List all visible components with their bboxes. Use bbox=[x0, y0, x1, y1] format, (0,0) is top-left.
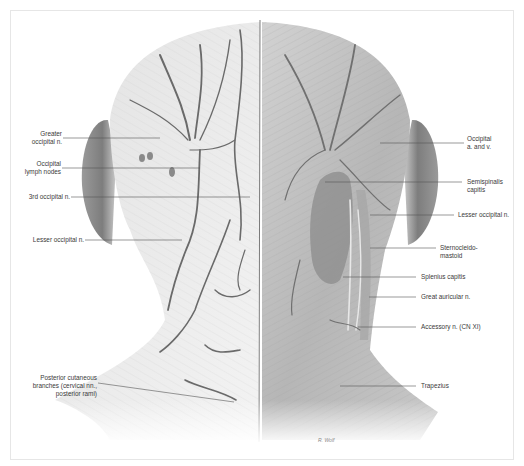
label-accessory-n: Accessory n. (CN XI) bbox=[421, 323, 481, 331]
label-greater-occipital-n: Greater occipital n. bbox=[26, 130, 62, 146]
label-lesser-occipital-n-right: Lesser occipital n. bbox=[458, 211, 509, 219]
label-occipital-lymph-nodes: Occipital lymph nodes bbox=[14, 160, 61, 176]
label-splenius-capitis: Splenius capitis bbox=[421, 273, 465, 281]
lymph-node bbox=[147, 152, 153, 160]
lymph-node bbox=[169, 167, 175, 177]
label-3rd-occipital-n: 3rd occipital n. bbox=[18, 193, 70, 201]
label-lesser-occipital-n-left: Lesser occipital n. bbox=[20, 236, 84, 244]
label-posterior-cutaneous-branches: Posterior cutaneous branches (cervical n… bbox=[18, 374, 97, 398]
label-occipital-a-and-v: Occipital a. and v. bbox=[467, 135, 492, 151]
artist-signature: R. Wolf bbox=[318, 436, 334, 444]
label-sternocleidomastoid: Sternocleido- mastoid bbox=[440, 244, 478, 260]
label-great-auricular-n: Great auricular n. bbox=[421, 293, 470, 301]
label-trapezius: Trapezius bbox=[421, 382, 449, 390]
lymph-node bbox=[139, 154, 145, 162]
label-semispinalis-capitis: Semispinalis capitis bbox=[467, 178, 503, 194]
